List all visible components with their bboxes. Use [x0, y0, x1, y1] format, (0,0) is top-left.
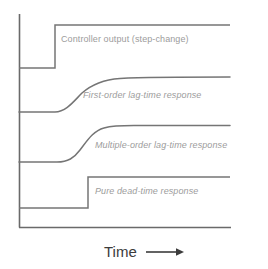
- curve-label-multiple-order-lag: Multiple-order lag-time response: [95, 140, 227, 151]
- response-curves-diagram: Controller output (step-change) First-or…: [0, 0, 268, 269]
- curve-label-pure-dead-time: Pure dead-time response: [95, 186, 198, 197]
- curve-step-change: [19, 25, 230, 68]
- x-axis-title: Time: [104, 243, 137, 260]
- curve-label-first-order-lag: First-order lag-time response: [83, 90, 201, 101]
- curve-label-step-change: Controller output (step-change): [61, 34, 189, 45]
- arrow-right-icon: [146, 246, 186, 258]
- x-axis-title-group: Time: [104, 243, 186, 260]
